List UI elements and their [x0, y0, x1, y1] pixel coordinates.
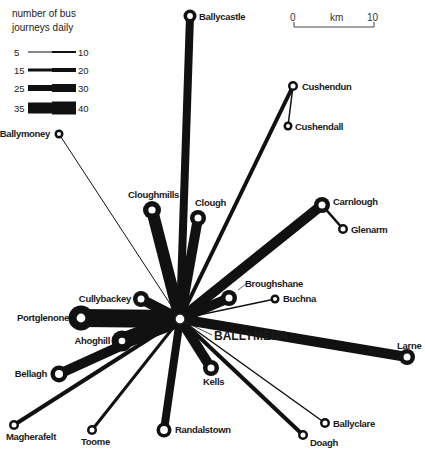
town-label-ballycastle: Ballycastle	[199, 11, 245, 22]
legend-min: 25	[14, 83, 25, 94]
town-label-larne: Larne	[397, 340, 421, 351]
town-label-clough: Clough	[195, 197, 226, 208]
legend-row: 510	[14, 47, 89, 58]
town-label-glenarm: Glenarm	[351, 224, 387, 235]
scale-start: 0	[290, 12, 296, 23]
town-label-kells: Kells	[203, 376, 224, 387]
bus-route-map: number of bus journeys daily 51015202530…	[0, 0, 425, 452]
hub-node-icon	[175, 314, 185, 324]
town-label-cullybackey: Cullybackey	[79, 293, 132, 304]
legend: number of bus journeys daily 51015202530…	[11, 8, 89, 114]
scale-bar: 0 km 10	[290, 12, 379, 27]
town-label-toome: Toome	[81, 436, 110, 447]
scale-unit: km	[330, 12, 343, 23]
town-label-portglenone: Portglenone	[17, 312, 69, 323]
town-label-cushendall: Cushendall	[295, 121, 343, 132]
scale-end: 10	[367, 12, 379, 23]
town-label-ballyclare: Ballyclare	[333, 418, 375, 429]
town-label-bellagh: Bellagh	[15, 368, 48, 379]
legend-row: 2530	[14, 83, 89, 94]
town-label-cushendun: Cushendun	[302, 81, 352, 92]
town-label-ahoghill: Ahoghill	[74, 335, 110, 346]
town-label-buchna: Buchna	[283, 293, 317, 304]
legend-title-line2: journeys daily	[11, 22, 73, 33]
legend-max: 10	[78, 47, 89, 58]
town-label-randalstown: Randalstown	[175, 424, 231, 435]
town-label-broughshane: Broughshane	[245, 278, 303, 289]
legend-max: 40	[78, 103, 89, 114]
legend-min: 5	[14, 47, 19, 58]
town-label-magherafelt: Magherafelt	[6, 431, 57, 442]
legend-min: 35	[14, 103, 25, 114]
town-label-cloughmills: Cloughmills	[128, 189, 179, 200]
legend-max: 30	[78, 83, 89, 94]
legend-row: 1520	[14, 65, 89, 76]
legend-title-line1: number of bus	[12, 8, 76, 19]
town-label-ballymoney: Ballymoney	[0, 128, 51, 139]
legend-row: 3540	[14, 103, 89, 114]
legend-max: 20	[78, 65, 89, 76]
town-labels: BallycastleCushendunBallymoneyCloughmill…	[0, 11, 421, 448]
town-label-carnlough: Carnlough	[333, 196, 378, 207]
hub-label: BALLYMENA	[214, 329, 289, 343]
legend-min: 15	[14, 65, 25, 76]
town-label-doagh: Doagh	[310, 437, 339, 448]
